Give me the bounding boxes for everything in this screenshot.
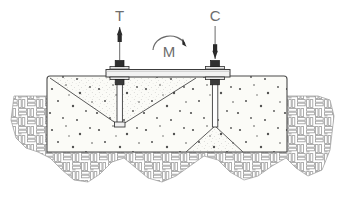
compression-label: C	[210, 7, 221, 24]
compression-bolt-nut-bottom	[211, 79, 220, 84]
base-plate	[106, 70, 230, 78]
concrete-aggregate	[47, 76, 287, 152]
concrete-foundation-block	[47, 76, 287, 152]
tension-bolt-embedded-head	[115, 122, 126, 127]
compression-bolt-nut-top	[211, 61, 220, 67]
compression-force-arrow-down	[212, 26, 218, 59]
moment-label: M	[163, 43, 176, 60]
tension-bolt-nut-bottom	[115, 79, 124, 84]
tension-label: T	[115, 7, 124, 24]
base-plate-body	[106, 70, 230, 78]
anchor-bolt-diagram: T M C	[0, 0, 345, 218]
tension-force-arrow-up	[117, 27, 123, 60]
diagram-canvas: T M C	[0, 0, 345, 218]
tension-bolt-nut-top	[115, 61, 124, 67]
